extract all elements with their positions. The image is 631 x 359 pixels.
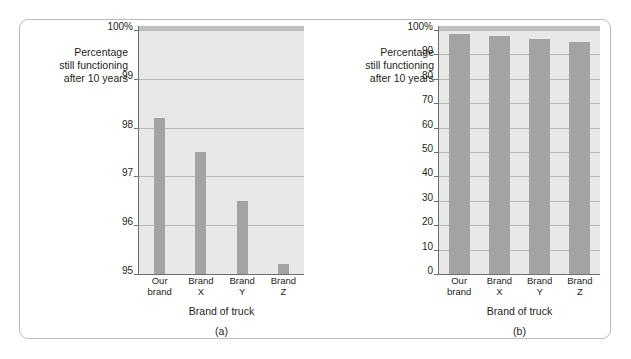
y-tick-label: 70 (393, 94, 433, 105)
x-axis-title-b: Brand of truck (439, 305, 600, 317)
x-tick-label-line: X (479, 286, 519, 297)
y-tick-label: 99 (93, 69, 133, 80)
y-tick-mark (134, 176, 139, 177)
x-tick-label-line: Brand (520, 275, 560, 286)
x-tick-label: BrandX (180, 275, 221, 297)
y-tick-mark (434, 176, 439, 177)
x-tick-label: BrandZ (263, 275, 304, 297)
x-tick-label: BrandY (520, 275, 560, 297)
y-tick-mark (134, 225, 139, 226)
x-tick-label-line: Brand (222, 275, 263, 286)
x-tick-label-line: Our (439, 275, 479, 286)
bar (237, 201, 248, 274)
x-tick-label: BrandY (222, 275, 263, 297)
y-tick-mark (434, 201, 439, 202)
plot-area-a (139, 26, 304, 274)
y-tick-mark (134, 79, 139, 80)
panel-caption-b: (b) (439, 325, 600, 337)
x-tick-label-line: Brand (479, 275, 519, 286)
gridline (439, 30, 600, 31)
x-tick-label-line: Y (222, 286, 263, 297)
y-tick-label: 60 (393, 118, 433, 129)
y-tick-label: 90 (393, 45, 433, 56)
y-tick-label: 100% (93, 21, 133, 32)
y-tick-mark (434, 30, 439, 31)
x-tick-label-line: Brand (263, 275, 304, 286)
y-axis-line (138, 26, 139, 274)
bar (195, 152, 206, 274)
x-tick-label-line: Brand (180, 275, 221, 286)
x-tick-label-line: Z (560, 286, 600, 297)
y-tick-label: 100% (393, 21, 433, 32)
y-tick-label: 30 (393, 191, 433, 202)
x-tick-label: Ourbrand (439, 275, 479, 297)
bar (489, 36, 510, 274)
y-tick-label: 80 (393, 69, 433, 80)
y-tick-mark (134, 30, 139, 31)
y-tick-label: 98 (93, 118, 133, 129)
x-tick-label: Ourbrand (139, 275, 180, 297)
x-tick-label-line: Our (139, 275, 180, 286)
bar (278, 264, 289, 274)
x-tick-label-line: X (180, 286, 221, 297)
x-tick-label-line: brand (439, 286, 479, 297)
plot-area-b (439, 26, 600, 274)
chart-panel-b: Percentage still functioning after 10 ye… (320, 20, 612, 338)
bar (569, 42, 590, 274)
y-axis-caption-line: Percentage (24, 46, 128, 59)
y-axis-line (438, 26, 439, 274)
bar (529, 39, 550, 274)
gridline (139, 79, 304, 80)
bar (449, 34, 470, 274)
x-tick-label: BrandX (479, 275, 519, 297)
y-tick-label: 97 (93, 167, 133, 178)
x-tick-label-line: Z (263, 286, 304, 297)
y-tick-label: 96 (93, 216, 133, 227)
y-tick-mark (434, 250, 439, 251)
y-tick-label: 10 (393, 240, 433, 251)
y-tick-mark (434, 128, 439, 129)
y-tick-mark (434, 54, 439, 55)
y-tick-mark (434, 225, 439, 226)
chart-panel-a: Percentage still functioning after 10 ye… (20, 20, 320, 338)
y-tick-label: 50 (393, 143, 433, 154)
y-tick-mark (434, 79, 439, 80)
x-tick-label-line: Brand (560, 275, 600, 286)
x-tick-label-line: Y (520, 286, 560, 297)
y-tick-label: 0 (393, 265, 433, 276)
x-axis-title-a: Brand of truck (139, 305, 304, 317)
figure-frame: Percentage still functioning after 10 ye… (19, 19, 611, 339)
gridline (139, 30, 304, 31)
panel-caption-a: (a) (139, 325, 304, 337)
y-tick-label: 20 (393, 216, 433, 227)
y-tick-mark (434, 152, 439, 153)
bar (154, 118, 165, 274)
y-tick-label: 40 (393, 167, 433, 178)
y-tick-mark (434, 103, 439, 104)
x-tick-label: BrandZ (560, 275, 600, 297)
y-tick-mark (134, 128, 139, 129)
y-tick-label: 95 (93, 265, 133, 276)
x-tick-label-line: brand (139, 286, 180, 297)
